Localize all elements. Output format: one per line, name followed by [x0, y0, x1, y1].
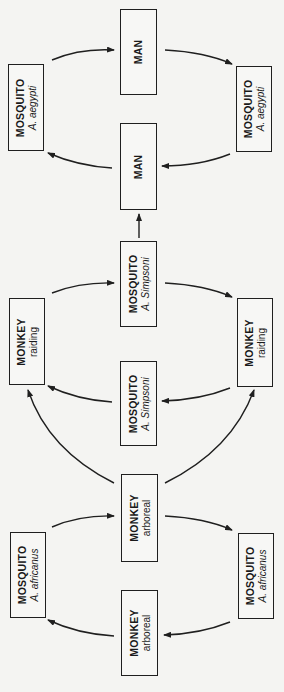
species-name: africanus [256, 550, 267, 591]
node-mosquito-simpsoni-bottom: MOSQUITO A. Simpsoni [120, 361, 157, 446]
genus-abbrev: A. [139, 421, 150, 430]
arrow-man-top-to-aegypti-right [165, 50, 232, 64]
arrow-raiding-right-to-simpsoni-bottom [162, 388, 230, 401]
arrow-arboreal-to-raiding-left [28, 390, 114, 483]
node-title: MOSQUITO [127, 255, 139, 314]
node-title: MAN [133, 40, 145, 65]
arrow-aegypti-right-to-man-bottom [162, 154, 230, 166]
arrow-simpsoni-bottom-to-raiding-left [48, 386, 112, 402]
node-mosquito-aegypti-left: MOSQUITO A. aegypti [8, 64, 44, 151]
transmission-cycle-diagram: MAN MAN MOSQUITO A. Simpsoni MOSQUITO A.… [0, 0, 284, 692]
genus-abbrev: A. [256, 593, 267, 602]
node-species: A. Simpsoni [139, 255, 150, 314]
arrow-arboreal-top-to-africanus-right [165, 516, 232, 530]
node-species: A. aegypti [254, 80, 265, 139]
arrow-simpsoni-top-to-raiding-right [165, 283, 232, 297]
species-name: aegypti [254, 87, 265, 119]
arrow-raiding-left-to-simpsoni-top [52, 283, 114, 293]
node-subtitle: raiding [27, 318, 38, 365]
node-monkey-raiding-left: MONKEY raiding [9, 298, 45, 385]
node-mosquito-africanus-left: MOSQUITO A. africanus [10, 532, 46, 618]
node-man-top: MAN [120, 9, 157, 95]
node-title: MONKEY [128, 494, 140, 541]
arrow-man-bottom-to-aegypti-left [48, 153, 112, 168]
node-title: MONKEY [128, 609, 140, 656]
arrow-africanus-left-to-arboreal-top [52, 516, 114, 527]
node-monkey-arboreal-bottom: MONKEY arboreal [121, 590, 158, 676]
node-title: MOSQUITO [243, 80, 255, 139]
node-man-bottom: MAN [120, 123, 157, 210]
genus-abbrev: A. [139, 301, 150, 310]
node-subtitle: arboreal [140, 494, 151, 541]
node-title: MOSQUITO [15, 78, 27, 137]
species-name: Simpsoni [139, 257, 150, 298]
node-subtitle: raiding [255, 319, 266, 366]
node-subtitle: arboreal [140, 609, 151, 656]
species-name: Simpsoni [139, 377, 150, 418]
node-monkey-arboreal-top: MONKEY arboreal [121, 474, 158, 562]
node-species: A. aegypti [26, 78, 37, 137]
node-species: A. africanus [28, 546, 39, 605]
node-title: MAN [133, 154, 145, 179]
arrow-aegypti-left-to-man-top [52, 50, 114, 60]
node-title: MONKEY [16, 318, 28, 365]
arrow-arboreal-to-raiding-right [165, 390, 254, 483]
node-title: MOSQUITO [245, 547, 257, 606]
node-mosquito-aegypti-right: MOSQUITO A. aegypti [236, 66, 272, 152]
node-species: A. africanus [256, 547, 267, 606]
genus-abbrev: A. [28, 592, 39, 601]
node-mosquito-simpsoni-top: MOSQUITO A. Simpsoni [120, 241, 157, 327]
arrow-africanus-right-to-arboreal-bottom [164, 622, 230, 635]
species-name: africanus [28, 549, 39, 590]
node-title: MOSQUITO [127, 374, 139, 433]
node-title: MOSQUITO [17, 546, 29, 605]
node-species: A. Simpsoni [139, 374, 150, 433]
genus-abbrev: A. [254, 122, 265, 131]
arrow-arboreal-bottom-to-africanus-left [48, 620, 114, 636]
node-monkey-raiding-right: MONKEY raiding [237, 298, 273, 387]
species-name: aegypti [26, 85, 37, 117]
node-title: MONKEY [244, 319, 256, 366]
genus-abbrev: A. [26, 120, 37, 129]
node-mosquito-africanus-right: MOSQUITO A. africanus [238, 533, 274, 619]
